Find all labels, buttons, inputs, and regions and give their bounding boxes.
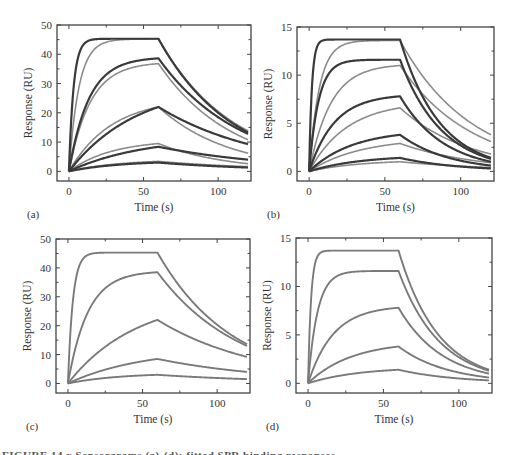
x-tick-label: 50 <box>378 397 390 409</box>
y-tick-label: 40 <box>41 48 53 60</box>
y-tick-label: 20 <box>41 107 53 119</box>
x-tick-label: 0 <box>305 397 311 409</box>
x-tick-label: 50 <box>379 185 391 197</box>
x-axis-label: Time (s) <box>375 413 414 426</box>
x-tick-label: 100 <box>209 397 226 409</box>
y-tick-label: 50 <box>40 233 52 245</box>
y-tick-label: 5 <box>286 329 292 341</box>
series-group <box>69 39 248 172</box>
y-tick-label: 30 <box>41 78 53 90</box>
y-tick-label: 10 <box>41 136 53 148</box>
curve-curve-5 <box>68 375 247 384</box>
y-tick-label: 40 <box>40 262 52 274</box>
x-axis-label: Time (s) <box>376 201 415 214</box>
series-group <box>309 40 491 172</box>
x-axis-label: Time (s) <box>134 413 173 426</box>
y-tick-label: 15 <box>280 232 292 244</box>
x-tick-label: 0 <box>65 397 71 409</box>
chart-panel-b: 050100051015Time (s)Response (RU)(b) <box>262 21 494 221</box>
y-tick-label: 0 <box>286 377 292 389</box>
figure: 05010001020304050Time (s)Response (RU)(a… <box>0 0 515 455</box>
curve-data-5 <box>69 163 248 172</box>
sensorgram-panels: 05010001020304050Time (s)Response (RU)(a… <box>0 0 515 455</box>
chart-panel-c: 05010001020304050Time (s)Response (RU)(c… <box>21 233 250 433</box>
y-axis-label: Response (RU) <box>22 68 35 139</box>
y-axis-label: Response (RU) <box>262 69 275 140</box>
panel-label: (c) <box>26 420 39 433</box>
x-tick-label: 100 <box>452 185 469 197</box>
x-tick-label: 50 <box>137 397 149 409</box>
x-axis-label: Time (s) <box>135 201 174 214</box>
y-tick-label: 0 <box>47 165 53 177</box>
y-tick-label: 30 <box>40 291 52 303</box>
curve-fit-2 <box>69 64 248 172</box>
x-tick-label: 0 <box>66 185 72 197</box>
curve-curve-2 <box>308 271 489 383</box>
series-group <box>308 251 489 384</box>
figure-caption: FIGURE 14.x Sensorgrams (a)-(d): fitted … <box>2 446 335 455</box>
y-tick-label: 5 <box>287 117 293 129</box>
panel-label: (a) <box>27 208 40 221</box>
curve-curve-3 <box>308 308 489 384</box>
curve-data-5 <box>309 158 491 171</box>
chart-panel-d: 050100051015Time (s)Response (RU)(d) <box>261 232 492 433</box>
y-tick-label: 15 <box>281 21 293 33</box>
y-tick-label: 50 <box>41 19 53 31</box>
y-tick-label: 10 <box>40 349 52 361</box>
y-axis-label: Response (RU) <box>261 280 274 351</box>
panel-label: (d) <box>266 420 279 433</box>
y-tick-label: 0 <box>287 165 293 177</box>
series-group <box>68 253 247 384</box>
y-tick-label: 10 <box>281 69 293 81</box>
x-tick-label: 100 <box>210 185 227 197</box>
chart-panel-a: 05010001020304050Time (s)Response (RU)(a… <box>22 19 251 221</box>
x-tick-label: 100 <box>451 397 468 409</box>
panel-label: (b) <box>267 208 280 221</box>
y-tick-label: 10 <box>280 280 292 292</box>
curve-curve-5 <box>308 370 489 384</box>
x-tick-label: 50 <box>138 185 150 197</box>
y-tick-label: 0 <box>46 377 52 389</box>
x-tick-label: 0 <box>306 185 312 197</box>
y-tick-label: 20 <box>40 320 52 332</box>
y-axis-label: Response (RU) <box>21 281 34 352</box>
